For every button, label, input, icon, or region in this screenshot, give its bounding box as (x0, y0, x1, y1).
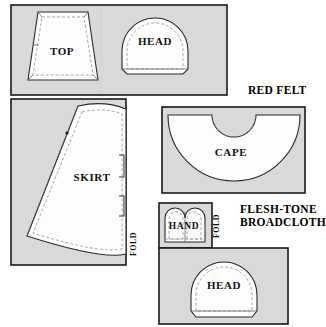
hand-piece-group (165, 208, 205, 242)
fold-label-skirt: FOLD (129, 232, 138, 256)
pattern-layout-diagram: TOP HEAD SKIRT CAPE HAND HEAD FOLD FOLD … (0, 0, 326, 327)
pattern-layout-canvas (0, 0, 326, 327)
fold-label-hand: FOLD (212, 214, 221, 238)
top-piece-outline (28, 12, 98, 80)
top-piece-group (28, 12, 98, 80)
fabric-label-flesh-tone-line2: BROADCLOTH (240, 216, 326, 229)
skirt-match-dot (65, 131, 68, 134)
fabric-label-flesh-tone-line1: FLESH-TONE (240, 203, 317, 216)
fabric-label-red-felt: RED FELT (248, 84, 307, 97)
